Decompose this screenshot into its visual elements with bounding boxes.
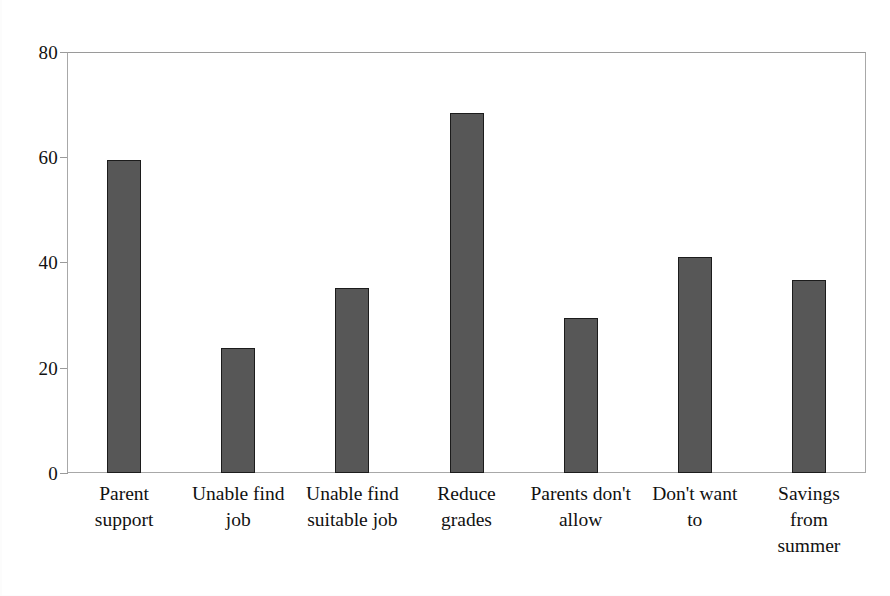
x-axis-label-3-line-0: Reduce: [409, 481, 523, 507]
x-axis-label-4-line-1: allow: [524, 507, 638, 533]
x-axis-label-2: Unable findsuitable job: [295, 481, 409, 533]
bar-0: [107, 160, 141, 473]
x-axis-label-5-line-1: to: [638, 507, 752, 533]
bar-3: [450, 113, 484, 473]
x-axis-label-2-line-1: suitable job: [295, 507, 409, 533]
y-tick-label-80: 80: [0, 43, 58, 62]
bar-chart: 80 60 40 20 0 ParentsupportUnable findjo…: [0, 0, 890, 596]
bar-6: [792, 280, 826, 473]
x-axis-label-6-line-0: Savings: [752, 481, 866, 507]
y-tick-mark-0: [60, 473, 68, 474]
x-axis-label-0-line-1: support: [67, 507, 181, 533]
y-tick-label-40: 40: [0, 253, 58, 272]
x-axis-label-3: Reducegrades: [409, 481, 523, 533]
x-axis-label-1-line-1: job: [181, 507, 295, 533]
bars-group: [67, 52, 866, 473]
x-axis: ParentsupportUnable findjobUnable findsu…: [67, 481, 866, 591]
x-axis-label-2-line-0: Unable find: [295, 481, 409, 507]
bar-4: [564, 318, 598, 473]
x-axis-label-6: Savingsfromsummer: [752, 481, 866, 559]
bar-1: [221, 348, 255, 473]
y-tick-label-60: 60: [0, 148, 58, 167]
y-tick-label-20: 20: [0, 359, 58, 378]
x-axis-label-3-line-1: grades: [409, 507, 523, 533]
x-axis-label-5: Don't wantto: [638, 481, 752, 533]
y-tick-label-0: 0: [0, 464, 58, 483]
x-axis-label-5-line-0: Don't want: [638, 481, 752, 507]
x-axis-label-4-line-0: Parents don't: [524, 481, 638, 507]
x-axis-label-6-line-1: from: [752, 507, 866, 533]
y-axis: 80 60 40 20 0: [0, 0, 58, 596]
x-axis-label-1: Unable findjob: [181, 481, 295, 533]
bar-2: [335, 288, 369, 473]
x-axis-label-0-line-0: Parent: [67, 481, 181, 507]
x-axis-label-1-line-0: Unable find: [181, 481, 295, 507]
x-axis-label-4: Parents don'tallow: [524, 481, 638, 533]
bar-5: [678, 257, 712, 473]
x-axis-label-6-line-2: summer: [752, 533, 866, 559]
x-axis-label-0: Parentsupport: [67, 481, 181, 533]
